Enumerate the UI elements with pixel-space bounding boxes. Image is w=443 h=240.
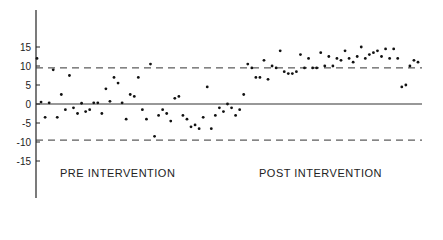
data-point <box>315 67 318 70</box>
data-point <box>44 116 47 119</box>
data-point <box>307 57 310 60</box>
data-point <box>161 108 164 111</box>
data-point <box>206 86 209 89</box>
post-intervention-label: POST INTERVENTION <box>259 167 382 179</box>
data-point <box>388 57 391 60</box>
data-point <box>68 74 71 77</box>
data-point <box>153 135 156 138</box>
data-point <box>186 118 189 121</box>
data-point <box>36 57 39 60</box>
data-point <box>254 76 257 79</box>
data-point <box>303 67 306 70</box>
data-point <box>279 49 282 52</box>
data-point <box>336 57 339 60</box>
data-point <box>327 55 330 58</box>
data-point <box>133 95 136 98</box>
data-point <box>287 72 290 75</box>
data-point <box>246 63 249 66</box>
data-point <box>364 57 367 60</box>
data-point <box>100 112 103 115</box>
data-point <box>271 65 274 68</box>
data-point <box>348 57 351 60</box>
pre-intervention-label: PRE INTERVENTION <box>60 167 175 179</box>
data-point <box>404 84 407 87</box>
data-point <box>222 110 225 113</box>
data-point <box>214 114 217 117</box>
data-point <box>319 51 322 54</box>
data-point <box>210 127 213 130</box>
data-point <box>360 46 363 49</box>
data-point <box>372 51 375 54</box>
data-point <box>291 72 294 75</box>
data-point <box>263 59 266 62</box>
data-point <box>384 48 387 51</box>
data-point <box>396 57 399 60</box>
y-tick-label: -10 <box>17 137 32 148</box>
data-point <box>376 49 379 52</box>
data-point <box>88 108 91 111</box>
data-point <box>72 106 75 109</box>
data-point <box>177 95 180 98</box>
data-point <box>417 61 420 64</box>
data-point <box>413 59 416 62</box>
data-point <box>109 100 112 103</box>
data-point <box>105 87 108 90</box>
data-point <box>113 76 116 79</box>
data-point <box>283 70 286 73</box>
data-point <box>352 61 355 64</box>
y-tick-label: 5 <box>25 80 31 91</box>
data-point <box>226 103 229 106</box>
data-point <box>295 70 298 73</box>
data-point <box>149 63 152 66</box>
data-point <box>190 125 193 128</box>
y-tick-label: 10 <box>20 61 32 72</box>
data-point <box>194 124 197 127</box>
data-point <box>218 106 221 109</box>
data-point <box>356 55 359 58</box>
data-point <box>408 65 411 68</box>
data-point <box>242 93 245 96</box>
data-point <box>137 76 140 79</box>
data-point <box>96 101 99 104</box>
data-point <box>125 118 128 121</box>
data-point <box>52 68 55 71</box>
data-point <box>157 114 160 117</box>
y-tick-label: -5 <box>22 118 31 129</box>
data-point <box>259 76 262 79</box>
data-point <box>182 114 185 117</box>
data-point <box>368 53 371 56</box>
data-point <box>121 101 124 104</box>
data-point <box>165 112 168 115</box>
data-point <box>299 53 302 56</box>
y-tick-label: 0 <box>25 99 31 110</box>
data-point <box>250 67 253 70</box>
data-point <box>331 65 334 68</box>
data-point <box>92 101 95 104</box>
data-point <box>267 78 270 81</box>
data-point <box>76 112 79 115</box>
data-point <box>64 108 67 111</box>
data-point <box>56 116 59 119</box>
data-point <box>198 127 201 130</box>
data-point <box>238 108 241 111</box>
data-point <box>40 101 43 104</box>
data-point <box>202 116 205 119</box>
data-point <box>340 59 343 62</box>
data-point <box>234 114 237 117</box>
data-point <box>380 55 383 58</box>
data-point <box>392 48 395 51</box>
data-point <box>173 97 176 100</box>
data-point <box>84 110 87 113</box>
data-point <box>48 101 51 104</box>
data-point <box>60 93 63 96</box>
data-point <box>323 65 326 68</box>
data-point <box>141 108 144 111</box>
y-tick-label: 15 <box>20 42 32 53</box>
data-point <box>311 67 314 70</box>
data-point <box>169 120 172 123</box>
data-point <box>145 118 148 121</box>
data-point <box>275 67 278 70</box>
data-point <box>344 49 347 52</box>
data-point <box>129 93 132 96</box>
data-point <box>80 102 83 105</box>
